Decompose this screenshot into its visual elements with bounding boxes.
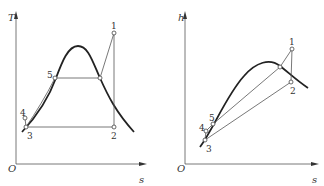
ts-label-4: 4 [20,108,26,118]
hs-x-label: s [312,174,317,185]
ts-saturation-dome [22,46,134,132]
ts-label-1: 1 [111,21,117,31]
hs-point-2 [289,80,293,84]
ts-point-5 [53,76,57,80]
ts-origin-label: O [8,163,16,174]
hs-origin-label: O [177,163,185,174]
ts-label-5: 5 [47,70,53,80]
hs-label-1: 1 [289,37,295,47]
ts-point-2 [112,125,116,129]
hs-superheat-line [280,49,292,67]
hs-diagram: h s O 1 2 3 4 5 [177,11,319,185]
hs-x-arrow-icon [311,162,319,166]
ts-point-3 [24,125,28,129]
ts-label-3: 3 [27,131,33,141]
hs-condensation-line [205,82,291,140]
ts-point-1 [112,31,116,35]
thermo-diagrams: T s O 1 2 3 4 5 h s O [0,0,324,186]
hs-saturation-curve [200,62,308,147]
hs-label-4: 4 [199,123,205,133]
ts-diagram: T s O 1 2 3 4 5 [8,11,147,185]
ts-sat-vapor-point [98,76,102,80]
hs-point-1 [290,47,294,51]
hs-sat-vapor-point [278,65,282,69]
hs-label-5: 5 [209,113,215,123]
ts-x-label: s [139,174,144,185]
hs-point-3 [203,138,207,142]
ts-heating-line [26,78,55,127]
hs-expansion-line [291,49,292,82]
hs-y-label: h [178,12,184,23]
ts-label-2: 2 [111,131,117,141]
ts-superheat-line [100,33,114,78]
hs-label-2: 2 [290,86,296,96]
hs-label-3: 3 [206,144,212,154]
hs-evaporation-line [213,67,280,124]
ts-x-arrow-icon [139,162,147,166]
